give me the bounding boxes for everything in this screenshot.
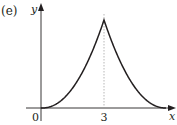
origin-label: 0 [32, 111, 39, 124]
x-tick-label-3: 3 [101, 111, 108, 124]
panel-label: (e) [1, 4, 17, 18]
curve-series [41, 20, 166, 108]
y-axis-label: y [30, 3, 38, 16]
x-axis-label: x [169, 110, 176, 123]
y-axis-arrowhead [38, 3, 44, 11]
chart: (e) y x 0 3 [0, 0, 177, 125]
